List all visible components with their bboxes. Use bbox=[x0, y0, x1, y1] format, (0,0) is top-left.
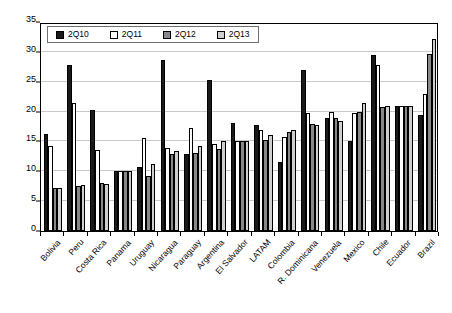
y-axis: 05101520253035 bbox=[0, 23, 40, 232]
bar-group bbox=[416, 24, 439, 231]
legend-label: 2Q10 bbox=[68, 30, 89, 39]
y-axis-tick-label: 30 bbox=[26, 44, 36, 53]
bar bbox=[174, 151, 179, 231]
bar-group bbox=[228, 24, 251, 231]
x-axis-tick-label: Mexico bbox=[342, 238, 366, 264]
bar bbox=[362, 103, 367, 231]
legend-label: 2Q13 bbox=[229, 30, 250, 39]
legend-label: 2Q11 bbox=[122, 30, 142, 39]
legend-swatch-icon bbox=[56, 31, 64, 39]
chart-legend: 2Q102Q112Q122Q13 bbox=[47, 26, 259, 43]
bar bbox=[385, 106, 390, 231]
bar bbox=[221, 141, 226, 231]
bar-group bbox=[181, 24, 204, 231]
bar bbox=[408, 106, 413, 231]
y-axis-tick-label: 15 bbox=[26, 134, 36, 143]
bar bbox=[291, 130, 296, 232]
bar bbox=[268, 135, 273, 231]
legend-swatch-icon bbox=[217, 31, 225, 39]
bar-group bbox=[275, 24, 298, 231]
bar bbox=[245, 141, 250, 231]
bar bbox=[198, 146, 203, 231]
legend-entry: 2Q13 bbox=[217, 30, 250, 39]
bar bbox=[432, 39, 437, 231]
bar-group bbox=[135, 24, 158, 231]
bar bbox=[338, 121, 343, 231]
plot-area bbox=[40, 23, 438, 232]
bar-group bbox=[205, 24, 228, 231]
y-axis-tick-label: 20 bbox=[26, 104, 36, 113]
bar-group bbox=[88, 24, 111, 231]
bar bbox=[57, 188, 62, 231]
y-axis-tick-label: 35 bbox=[26, 15, 36, 24]
bar-chart: 05101520253035 BoliviaPeruCosta RicaPana… bbox=[0, 0, 452, 313]
y-axis-tick-label: 10 bbox=[26, 164, 36, 173]
bar-group bbox=[111, 24, 134, 231]
x-axis-tick-label: Peru bbox=[67, 238, 85, 257]
y-axis-tick-label: 25 bbox=[26, 74, 36, 83]
legend-entry: 2Q12 bbox=[163, 30, 196, 39]
x-axis-tick-label: Brazil bbox=[416, 238, 437, 259]
bar-group bbox=[158, 24, 181, 231]
x-axis-labels: BoliviaPeruCosta RicaPanamaUruguayNicara… bbox=[0, 236, 452, 313]
bar-group bbox=[392, 24, 415, 231]
bar-group bbox=[252, 24, 275, 231]
bar bbox=[104, 184, 109, 231]
bar bbox=[315, 125, 320, 231]
bar-group bbox=[64, 24, 87, 231]
legend-entry: 2Q10 bbox=[56, 30, 89, 39]
legend-swatch-icon bbox=[163, 31, 171, 39]
bar bbox=[81, 185, 86, 231]
bar-group bbox=[345, 24, 368, 231]
x-axis-tick-label: Panama bbox=[105, 238, 133, 267]
x-axis-tick-label: Bolivia bbox=[39, 238, 62, 262]
bar-group bbox=[322, 24, 345, 231]
bar-group bbox=[369, 24, 392, 231]
bar-group bbox=[299, 24, 322, 231]
x-axis-tick-label: Chile bbox=[371, 238, 390, 258]
legend-label: 2Q12 bbox=[175, 30, 196, 39]
bar-group bbox=[41, 24, 64, 231]
bar bbox=[128, 171, 133, 231]
bar bbox=[151, 164, 156, 231]
legend-entry: 2Q11 bbox=[110, 30, 142, 39]
bars-layer bbox=[41, 24, 437, 231]
legend-swatch-icon bbox=[110, 31, 118, 39]
